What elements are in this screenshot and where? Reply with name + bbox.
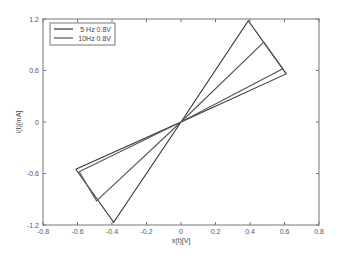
x-tick-label: 0 [179, 228, 183, 235]
x-tick-label: -0.6 [71, 228, 83, 235]
y-tick-label: 0.6 [29, 67, 39, 74]
y-tick-label: 0 [35, 119, 39, 126]
chart: -0.8-0.6-0.4-0.200.20.40.60.8-1.2-0.600.… [0, 0, 341, 260]
legend-label: 10Hz 0.8V [78, 35, 111, 42]
legend-label: 5 Hz 0.8V [80, 26, 111, 33]
x-tick-label: 0.8 [314, 228, 324, 235]
x-tick-label: -0.2 [140, 228, 152, 235]
y-tick-label: 1.2 [29, 16, 39, 23]
y-tick-label: -0.6 [27, 170, 39, 177]
y-axis-label: i(t)[mA] [15, 111, 23, 134]
x-tick-label: 0.2 [211, 228, 221, 235]
x-tick-label: 0.4 [245, 228, 255, 235]
legend: 5 Hz 0.8V10Hz 0.8V [50, 23, 115, 45]
x-axis-label: x(t)[V] [172, 237, 191, 245]
y-tick-label: -1.2 [27, 222, 39, 229]
x-tick-label: 0.6 [280, 228, 290, 235]
x-tick-label: -0.8 [37, 228, 49, 235]
x-tick-label: -0.4 [106, 228, 118, 235]
